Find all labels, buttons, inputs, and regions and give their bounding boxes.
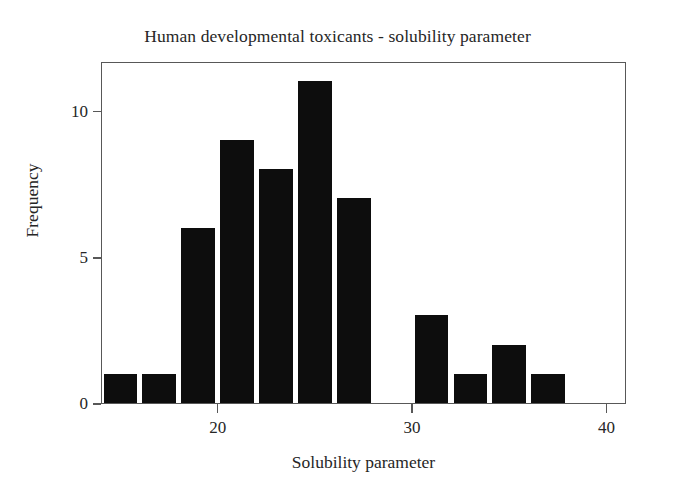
x-axis-tick-mark [217, 404, 218, 413]
x-axis-tick-mark [411, 404, 412, 413]
y-axis-tick-mark [93, 403, 101, 404]
y-axis-tick-label: 10 [48, 102, 88, 122]
y-axis-tick-labels: 0510 [0, 0, 88, 502]
x-axis-tick-mark [606, 404, 607, 413]
x-axis-tick-label: 20 [188, 418, 248, 438]
x-axis-title: Solubility parameter [101, 452, 626, 473]
y-axis-tick-mark [93, 257, 101, 258]
y-axis-tick-label: 0 [48, 394, 88, 414]
histogram-figure: Human developmental toxicants - solubili… [0, 0, 675, 502]
plot-area [101, 62, 626, 404]
chart-title: Human developmental toxicants - solubili… [0, 26, 675, 47]
x-axis-tick-label: 40 [577, 418, 637, 438]
x-axis-tick-label: 30 [382, 418, 442, 438]
y-axis-tick-label: 5 [48, 248, 88, 268]
y-axis-tick-mark [93, 111, 101, 112]
